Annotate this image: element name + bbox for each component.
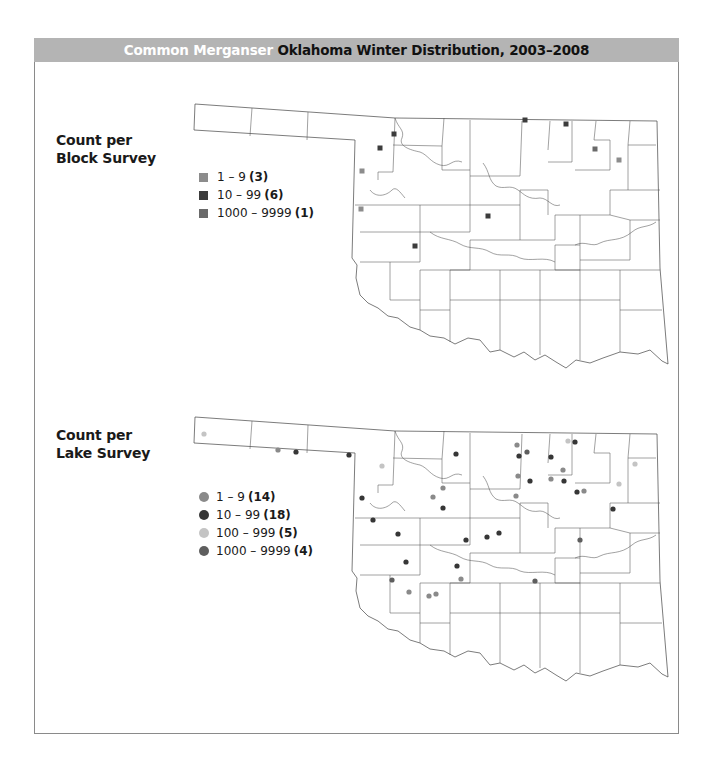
lake-point xyxy=(515,473,520,478)
block-point xyxy=(359,207,364,212)
lake-point xyxy=(527,478,532,483)
lake-point xyxy=(346,452,351,457)
lake-point xyxy=(389,577,394,582)
lake-point xyxy=(632,461,637,466)
block-point xyxy=(523,118,528,123)
block-point xyxy=(413,244,418,249)
lake-point xyxy=(532,578,537,583)
block-point xyxy=(617,158,622,163)
lake-point xyxy=(616,481,621,486)
block-survey-map xyxy=(194,104,668,368)
lake-point xyxy=(610,506,615,511)
maps-svg xyxy=(0,0,714,762)
lake-point xyxy=(516,453,521,458)
block-point xyxy=(593,147,598,152)
block-point xyxy=(378,146,383,151)
block-point xyxy=(392,132,397,137)
lake-point xyxy=(574,489,579,494)
block-point xyxy=(360,169,365,174)
oklahoma-county-map xyxy=(194,104,668,368)
lake-point xyxy=(560,467,565,472)
lake-point xyxy=(201,431,206,436)
lake-point xyxy=(359,495,364,500)
lake-point xyxy=(565,438,570,443)
lake-point xyxy=(453,451,458,456)
lake-point xyxy=(275,447,280,452)
lake-point xyxy=(403,559,408,564)
lake-point xyxy=(454,563,459,568)
lake-point xyxy=(406,589,411,594)
lake-point xyxy=(548,476,553,481)
lake-point xyxy=(440,485,445,490)
block-survey-points xyxy=(359,118,622,249)
block-point xyxy=(486,214,491,219)
lake-point xyxy=(426,593,431,598)
lake-point xyxy=(379,463,384,468)
lake-point xyxy=(430,494,435,499)
lake-point xyxy=(293,449,298,454)
lake-point xyxy=(395,531,400,536)
lake-point xyxy=(524,449,529,454)
lake-point xyxy=(463,537,468,542)
lake-point xyxy=(577,537,582,542)
lake-point xyxy=(548,454,553,459)
lake-point xyxy=(484,534,489,539)
lake-point xyxy=(572,439,577,444)
lake-point xyxy=(581,488,586,493)
lake-point xyxy=(458,576,463,581)
oklahoma-county-map xyxy=(194,417,668,681)
lake-point xyxy=(433,591,438,596)
lake-point xyxy=(370,517,375,522)
lake-point xyxy=(496,530,501,535)
lake-survey-map xyxy=(194,417,668,681)
lake-point xyxy=(561,478,566,483)
lake-point xyxy=(440,505,445,510)
lake-point xyxy=(514,442,519,447)
lake-point xyxy=(513,493,518,498)
block-point xyxy=(564,122,569,127)
